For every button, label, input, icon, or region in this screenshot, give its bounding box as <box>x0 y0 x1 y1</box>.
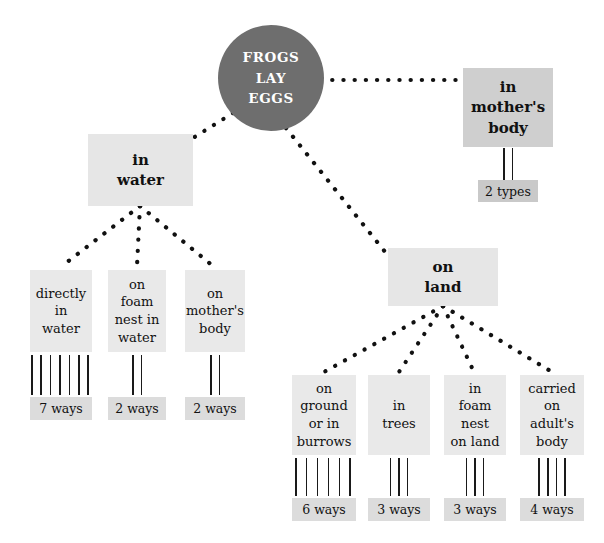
leaf-carried-on-adults-body: carried on adult's body <box>520 375 584 455</box>
tally-mark <box>40 355 42 395</box>
tally-mark <box>483 458 485 496</box>
leaf-line: mother's <box>186 302 244 320</box>
edge-on-land-to-in-foam-nest-on-land <box>443 306 474 372</box>
tally-mark <box>390 458 392 496</box>
tally-mark <box>306 458 308 496</box>
leaf-line: carried <box>528 380 576 398</box>
tally-in-mothers-body <box>492 148 524 180</box>
leaf-line: body <box>536 433 568 451</box>
leaf-on-mothers-body: on mother's body <box>185 270 245 352</box>
tally-directly-in-water <box>31 355 89 395</box>
tally-mark <box>339 458 341 496</box>
branch-in-water: in water <box>88 134 193 206</box>
tally-mark <box>466 458 468 496</box>
edge-in-water-to-on-foam-nest-in-water <box>137 206 140 266</box>
count-label: 3 ways <box>377 502 421 517</box>
count-in-mothers-body-label: 2 types <box>485 184 531 199</box>
tally-mark <box>407 458 409 496</box>
count-label: 3 ways <box>453 502 497 517</box>
count-directly-in-water: 7 ways <box>30 397 92 420</box>
count-on-foam-nest-in-water: 2 ways <box>108 397 166 420</box>
count-label: 4 ways <box>530 502 574 517</box>
diagram-canvas: FROGS LAY EGGS in mother's body 2 types … <box>0 0 604 543</box>
edge-on-land-to-on-ground-or-in-burrows <box>324 306 443 372</box>
root-node-frogs-lay-eggs: FROGS LAY EGGS <box>218 25 324 131</box>
tally-mark <box>141 355 143 395</box>
tally-mark <box>59 355 61 395</box>
root-line-3: EGGS <box>248 88 294 109</box>
edge-in-water-to-on-mothers-body <box>140 206 213 266</box>
tally-mark <box>503 148 505 180</box>
tally-mark <box>547 458 549 496</box>
branch-in-mothers-body-line-1: in <box>500 77 517 97</box>
tally-mark <box>50 355 52 395</box>
leaf-line: ground <box>300 397 347 415</box>
leaf-line: on <box>544 397 560 415</box>
count-in-foam-nest-on-land: 3 ways <box>444 498 506 521</box>
leaf-line: in <box>55 302 68 320</box>
tally-mark <box>31 355 33 395</box>
leaf-line: water <box>118 329 156 347</box>
leaf-line: on <box>316 380 332 398</box>
leaf-line: nest in <box>115 311 160 329</box>
count-label: 6 ways <box>302 502 346 517</box>
branch-on-land: on land <box>388 248 498 306</box>
tally-mark <box>349 458 351 496</box>
leaf-line: in <box>393 397 406 415</box>
branch-in-mothers-body-line-2: mother's <box>471 97 545 117</box>
edge-in-water-to-directly-in-water <box>62 206 140 266</box>
tally-mark <box>317 458 319 496</box>
leaf-line: body <box>199 320 231 338</box>
edge-root-to-on-land <box>286 128 398 268</box>
edge-on-land-to-in-trees <box>399 306 443 372</box>
tally-mark <box>295 458 297 496</box>
count-label: 2 ways <box>115 401 159 416</box>
branch-in-mothers-body: in mother's body <box>463 68 553 147</box>
leaf-line: burrows <box>297 433 352 451</box>
leaf-line: on <box>129 276 145 294</box>
tally-mark <box>219 355 221 395</box>
leaf-line: adult's <box>530 415 574 433</box>
tally-mark <box>78 355 80 395</box>
count-in-trees: 3 ways <box>368 498 430 521</box>
leaf-line: foam <box>459 397 492 415</box>
leaf-in-foam-nest-on-land: in foam nest on land <box>444 375 506 455</box>
leaf-line: on land <box>451 433 500 451</box>
tally-in-trees <box>380 458 418 496</box>
tally-mark <box>538 458 540 496</box>
root-line-1: FROGS <box>243 47 300 68</box>
root-line-2: LAY <box>256 68 287 89</box>
leaf-on-foam-nest-in-water: on foam nest in water <box>108 270 166 352</box>
leaf-line: water <box>42 320 80 338</box>
leaf-line: directly <box>36 285 86 303</box>
tally-mark <box>564 458 566 496</box>
leaf-line: trees <box>382 415 416 433</box>
leaf-line: nest <box>461 415 489 433</box>
count-on-ground-or-in-burrows: 6 ways <box>292 498 356 521</box>
tally-mark <box>132 355 134 395</box>
leaf-line: foam <box>121 293 154 311</box>
tally-mark <box>474 458 476 496</box>
tally-on-ground-or-in-burrows <box>295 458 351 496</box>
tally-in-foam-nest-on-land <box>456 458 494 496</box>
edge-on-land-to-carried-on-adults-body <box>443 306 552 372</box>
count-carried-on-adults-body: 4 ways <box>520 498 584 521</box>
tally-on-mothers-body <box>200 355 230 395</box>
branch-in-water-line-2: water <box>117 170 164 190</box>
branch-on-land-line-2: land <box>425 277 462 297</box>
count-label: 7 ways <box>39 401 83 416</box>
tally-mark <box>87 355 89 395</box>
tally-on-foam-nest-in-water <box>122 355 152 395</box>
count-label: 2 ways <box>193 401 237 416</box>
leaf-line: in <box>469 380 482 398</box>
tally-carried-on-adults-body <box>529 458 575 496</box>
tally-mark <box>210 355 212 395</box>
branch-in-water-line-1: in <box>132 150 149 170</box>
tally-mark <box>69 355 71 395</box>
tally-mark <box>512 148 514 180</box>
tally-mark <box>398 458 400 496</box>
branch-on-land-line-1: on <box>433 257 454 277</box>
leaf-directly-in-water: directly in water <box>30 270 92 352</box>
leaf-line: on <box>207 285 223 303</box>
leaf-line: or in <box>309 415 340 433</box>
